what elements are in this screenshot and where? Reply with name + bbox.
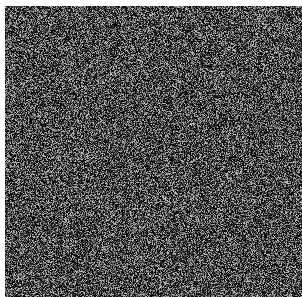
noise-texture	[5, 6, 302, 297]
